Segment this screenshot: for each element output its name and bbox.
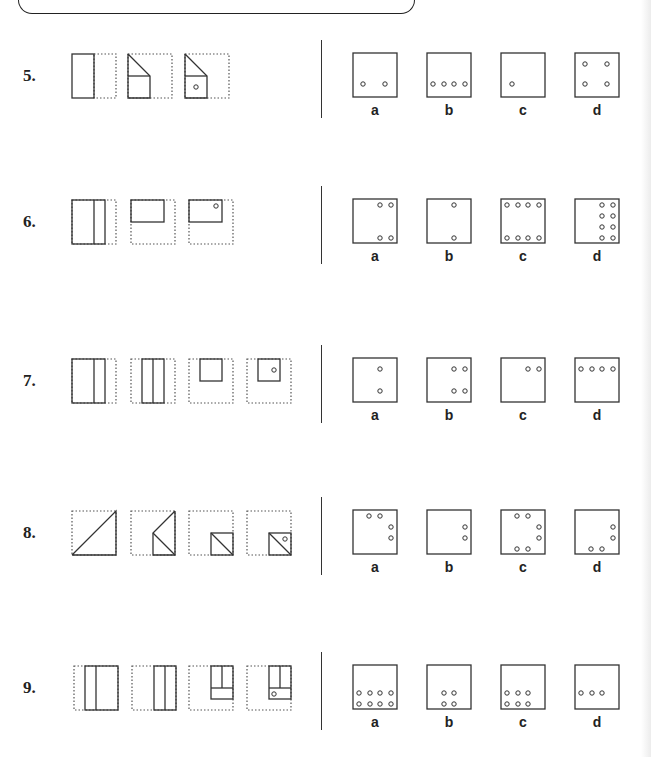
- answer-label-d: d: [574, 407, 620, 423]
- answer-option-b[interactable]: [426, 198, 472, 244]
- answer-option-a[interactable]: [352, 664, 398, 710]
- answer-label-a: a: [352, 714, 398, 730]
- answer-label-b: b: [426, 248, 472, 264]
- answer-option-c[interactable]: [500, 198, 546, 244]
- question-number: 8.: [23, 523, 36, 543]
- puzzle-row-9: 9.abcd: [0, 652, 651, 757]
- answer-option-b[interactable]: [426, 357, 472, 403]
- answer-label-a: a: [352, 102, 398, 118]
- fold-step-2-figure: [130, 358, 176, 404]
- answer-label-c: c: [500, 407, 546, 423]
- answer-label-d: d: [574, 714, 620, 730]
- fold-step-3-figure: [188, 358, 234, 404]
- divider-line: [321, 345, 322, 423]
- fold-step-1-figure: [73, 665, 119, 711]
- puzzle-row-5: 5.abcd: [0, 40, 651, 150]
- fold-step-1-figure: [71, 358, 117, 404]
- fold-step-2-figure: [127, 53, 173, 99]
- fold-step-2-figure: [130, 199, 176, 245]
- divider-line: [321, 186, 322, 264]
- puzzle-row-7: 7.abcd: [0, 345, 651, 455]
- divider-line: [321, 497, 322, 575]
- fold-step-2-figure: [131, 665, 177, 711]
- answer-label-a: a: [352, 559, 398, 575]
- answer-label-b: b: [426, 407, 472, 423]
- answer-option-b[interactable]: [426, 509, 472, 555]
- question-number: 7.: [23, 371, 36, 391]
- puzzle-row-8: 8.abcd: [0, 497, 651, 607]
- answer-label-b: b: [426, 714, 472, 730]
- answer-option-d[interactable]: [574, 198, 620, 244]
- puzzle-row-6: 6.abcd: [0, 186, 651, 296]
- fold-step-3-figure: [184, 53, 230, 99]
- answer-label-d: d: [574, 248, 620, 264]
- answer-option-d[interactable]: [574, 52, 620, 98]
- divider-line: [321, 40, 322, 118]
- fold-step-2-figure: [130, 510, 176, 556]
- answer-label-d: d: [574, 102, 620, 118]
- question-number: 5.: [23, 66, 36, 86]
- answer-label-b: b: [426, 559, 472, 575]
- fold-step-4-figure: [246, 358, 292, 404]
- question-number: 6.: [23, 212, 36, 232]
- answer-label-c: c: [500, 714, 546, 730]
- answer-option-a[interactable]: [352, 52, 398, 98]
- instruction-box: [18, 0, 415, 14]
- answer-option-c[interactable]: [500, 52, 546, 98]
- fold-step-1-figure: [71, 199, 117, 245]
- answer-option-c[interactable]: [500, 509, 546, 555]
- divider-line: [321, 652, 322, 730]
- answer-label-a: a: [352, 407, 398, 423]
- answer-option-b[interactable]: [426, 664, 472, 710]
- fold-step-4-figure: [246, 510, 292, 556]
- answer-label-b: b: [426, 102, 472, 118]
- answer-label-a: a: [352, 248, 398, 264]
- fold-step-3-figure: [188, 510, 234, 556]
- answer-option-a[interactable]: [352, 357, 398, 403]
- answer-label-d: d: [574, 559, 620, 575]
- answer-label-c: c: [500, 559, 546, 575]
- answer-option-d[interactable]: [574, 509, 620, 555]
- fold-step-3-figure: [188, 665, 234, 711]
- answer-label-c: c: [500, 248, 546, 264]
- answer-option-c[interactable]: [500, 357, 546, 403]
- answer-option-d[interactable]: [574, 664, 620, 710]
- answer-option-a[interactable]: [352, 198, 398, 244]
- answer-option-a[interactable]: [352, 509, 398, 555]
- answer-option-b[interactable]: [426, 52, 472, 98]
- question-number: 9.: [23, 678, 36, 698]
- fold-step-4-figure: [246, 665, 292, 711]
- answer-label-c: c: [500, 102, 546, 118]
- fold-step-1-figure: [71, 510, 117, 556]
- answer-option-d[interactable]: [574, 357, 620, 403]
- fold-step-1-figure: [71, 53, 117, 99]
- answer-option-c[interactable]: [500, 664, 546, 710]
- fold-step-3-figure: [188, 199, 234, 245]
